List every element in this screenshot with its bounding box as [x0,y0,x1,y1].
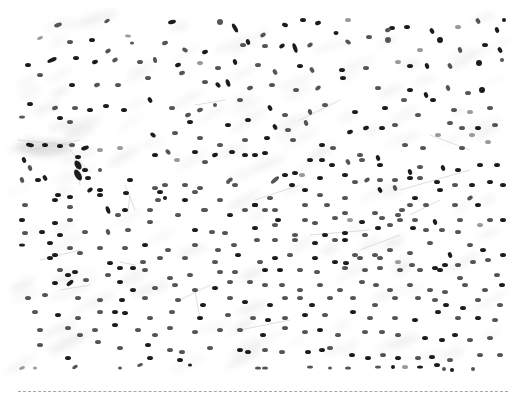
cell-nucleus [217,198,223,202]
cell-nucleus [485,258,491,262]
cell-nucleus [395,260,401,264]
cell-nucleus [435,133,441,137]
cell-nucleus [299,173,305,177]
cell-nucleus [77,333,83,337]
cell-nucleus [409,263,415,267]
cell-nucleus [202,160,208,164]
cell-nucleus [265,318,271,322]
cell-nucleus [95,340,101,344]
cell-nucleus [302,203,308,207]
cell-nucleus [302,313,308,317]
cell-nucleus [67,246,73,250]
cell-nucleus [345,18,351,22]
cell-nucleus [142,243,148,247]
cell-nucleus [309,303,315,307]
cell-nucleus [479,87,485,93]
cell-nucleus [235,253,241,257]
cell-nucleus [317,193,323,197]
cell-nucleus [125,228,131,232]
cell-nucleus [487,106,493,110]
cell-nucleus [262,283,268,287]
cell-nucleus [25,296,31,300]
cell-nucleus [272,208,278,212]
cell-nucleus [255,366,261,369]
cell-nucleus [240,43,246,47]
cell-nucleus [118,366,122,369]
cell-nucleus [47,256,53,260]
cell-nucleus [252,203,258,207]
cell-nucleus [455,25,461,29]
cell-nucleus [260,333,266,337]
cell-nucleus [297,288,303,292]
cell-nucleus [412,218,418,222]
cell-nucleus [322,313,328,317]
cell-nucleus [177,358,183,362]
cell-nucleus [231,243,237,247]
cell-nucleus [267,196,273,200]
cell-nucleus [167,326,173,330]
cell-nucleus [82,168,88,172]
cell-nucleus [105,273,111,277]
cell-nucleus [57,233,63,237]
cell-nucleus [123,191,129,195]
cell-nucleus [330,146,336,150]
cell-nucleus [285,128,291,132]
cell-nucleus [245,118,251,122]
cell-nucleus [42,143,48,147]
cell-nucleus [192,228,198,232]
cell-nucleus [122,246,128,250]
cell-nucleus [37,328,43,332]
cell-nucleus [442,263,448,267]
cell-nucleus [477,223,483,227]
cell-nucleus [302,330,308,334]
cell-nucleus [363,66,369,70]
cell-nucleus [407,88,413,92]
cell-nucleus [192,330,198,334]
cell-nucleus [359,158,365,162]
cell-nucleus [135,328,141,332]
cell-nucleus [225,313,231,317]
cell-nucleus [402,365,408,369]
cell-nucleus [327,296,333,300]
cell-nucleus [182,198,188,202]
cell-nucleus [365,356,371,360]
cell-nucleus [242,300,248,304]
cell-nucleus [254,238,260,242]
cell-nucleus [37,343,43,347]
cell-nucleus [262,151,268,155]
cell-nucleus [367,316,373,320]
cell-nucleus [127,178,133,182]
cell-nucleus [262,348,268,352]
cell-nucleus [359,280,365,284]
cell-nucleus [476,60,482,66]
cell-nucleus [237,348,243,352]
cell-nucleus [174,158,180,162]
cell-nucleus [97,310,103,314]
cell-nucleus [229,150,235,154]
cell-nucleus [25,63,31,67]
cell-nucleus [404,25,410,29]
cell-nucleus [75,316,81,320]
cell-nucleus [439,338,445,342]
cell-nucleus [350,310,356,314]
cell-nucleus [52,198,58,202]
cell-nucleus [372,253,378,257]
cell-nucleus [282,326,288,330]
cell-nucleus [412,318,418,322]
cell-nucleus [343,261,349,265]
cell-nucleus [350,296,356,300]
cell-nucleus [292,171,298,175]
cell-nucleus [89,38,95,42]
cell-nucleus [262,366,268,369]
cell-nucleus [297,268,303,272]
cell-nucleus [188,363,192,366]
cell-nucleus [157,190,163,194]
cell-nucleus [332,216,338,220]
cell-nucleus [152,153,158,157]
cell-nucleus [255,63,261,67]
cell-nucleus [117,146,123,150]
cell-nucleus [334,31,339,35]
cell-nucleus [322,103,328,107]
cell-nucleus [147,356,153,360]
cell-nucleus [387,223,393,227]
